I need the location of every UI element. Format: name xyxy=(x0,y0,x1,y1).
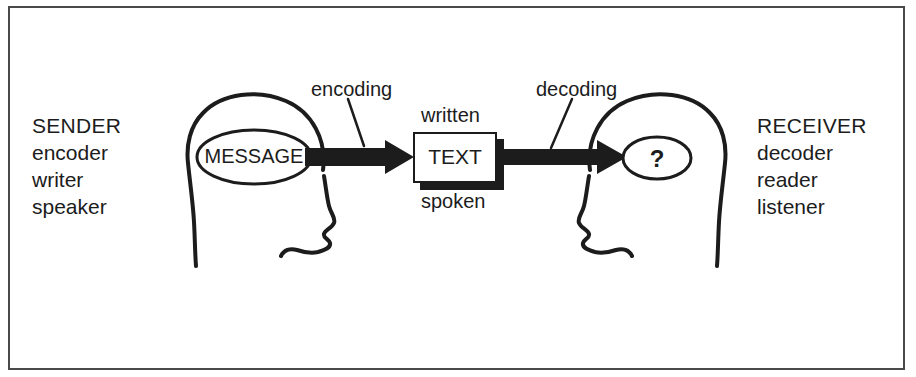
receiver-title: RECEIVER xyxy=(757,112,867,139)
encoding-label: encoding xyxy=(311,78,392,101)
spoken-label: spoken xyxy=(421,190,486,213)
receiver-role-listener: listener xyxy=(757,193,867,220)
receiver-role-block: RECEIVER decoder reader listener xyxy=(757,112,867,220)
sender-role-block: SENDER encoder writer speaker xyxy=(32,112,121,220)
message-oval-label: MESSAGE xyxy=(197,145,311,168)
written-label: written xyxy=(421,104,480,127)
sender-role-speaker: speaker xyxy=(32,193,121,220)
receiver-role-reader: reader xyxy=(757,166,867,193)
sender-title: SENDER xyxy=(32,112,121,139)
encoding-leader-line xyxy=(348,99,364,146)
diagram-canvas: TEXT MESSAGE ? encoding decoding written… xyxy=(0,0,916,377)
sender-role-writer: writer xyxy=(32,166,121,193)
decoding-label: decoding xyxy=(536,78,617,101)
arrow-decoding xyxy=(496,140,627,174)
question-oval-label: ? xyxy=(623,145,691,173)
receiver-role-decoder: decoder xyxy=(757,139,867,166)
text-box-label: TEXT xyxy=(413,145,497,169)
sender-role-encoder: encoder xyxy=(32,139,121,166)
decoding-leader-line xyxy=(551,99,572,148)
